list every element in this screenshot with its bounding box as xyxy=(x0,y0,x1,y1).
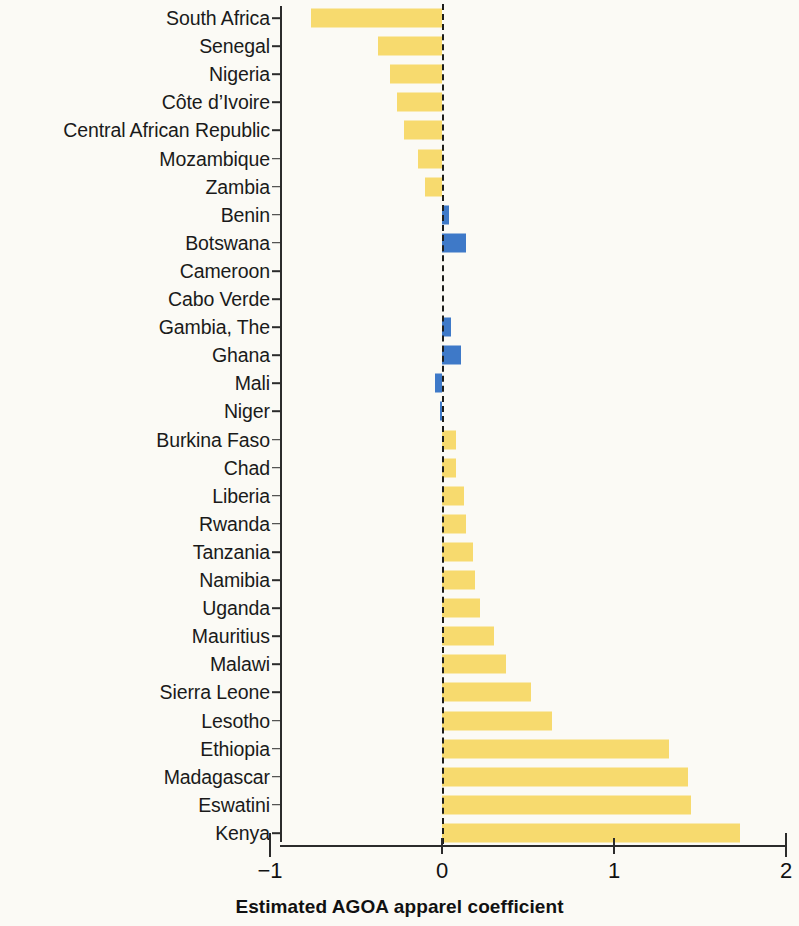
bar xyxy=(378,37,442,56)
bar-row: Gambia, The xyxy=(0,313,799,341)
category-label: Zambia xyxy=(206,175,270,198)
x-axis-tick xyxy=(785,833,787,857)
bar xyxy=(442,571,475,590)
bar xyxy=(442,486,464,505)
bar-row: Niger xyxy=(0,397,799,425)
y-axis-tick xyxy=(272,326,281,328)
x-axis-title: Estimated AGOA apparel coefficient xyxy=(0,896,799,918)
category-label: Gambia, The xyxy=(159,316,270,339)
bar xyxy=(397,93,442,112)
bar-row: Mozambique xyxy=(0,145,799,173)
category-label: Ghana xyxy=(212,344,270,367)
y-axis-tick xyxy=(272,242,281,244)
bar-row: Senegal xyxy=(0,32,799,60)
category-label: Namibia xyxy=(199,569,270,592)
bar-row: Burkina Faso xyxy=(0,426,799,454)
y-axis-tick xyxy=(272,45,281,47)
category-label: South Africa xyxy=(166,7,270,30)
bar-row: Benin xyxy=(0,201,799,229)
category-label: Mozambique xyxy=(159,147,270,170)
bar-row: Mali xyxy=(0,369,799,397)
bar xyxy=(425,177,442,196)
plot-area: South AfricaSenegalNigeriaCôte d’IvoireC… xyxy=(0,0,799,846)
zero-reference-line xyxy=(442,4,444,844)
bar xyxy=(442,430,456,449)
bar xyxy=(442,683,531,702)
chart-figure: South AfricaSenegalNigeriaCôte d’IvoireC… xyxy=(0,0,799,926)
category-label: Eswatini xyxy=(198,793,270,816)
y-axis-tick xyxy=(272,214,281,216)
y-axis-tick xyxy=(272,607,281,609)
category-label: Uganda xyxy=(202,597,270,620)
bar-row: Mauritius xyxy=(0,622,799,650)
x-axis-line xyxy=(280,845,787,847)
category-label: Senegal xyxy=(199,35,270,58)
category-label: Lesotho xyxy=(201,709,270,732)
bar-row: Botswana xyxy=(0,229,799,257)
category-label: Rwanda xyxy=(199,512,270,535)
bar xyxy=(442,767,688,786)
bar-row: Rwanda xyxy=(0,510,799,538)
bar xyxy=(404,121,442,140)
x-axis-tick-label: 0 xyxy=(436,858,448,884)
category-label: Chad xyxy=(224,456,270,479)
y-axis-tick xyxy=(272,130,281,132)
bar-row: Côte d’Ivoire xyxy=(0,88,799,116)
y-axis-tick xyxy=(272,776,281,778)
y-axis-tick xyxy=(272,439,281,441)
bar xyxy=(442,458,456,477)
y-axis-tick xyxy=(272,158,281,160)
category-label: Mali xyxy=(235,372,270,395)
y-axis-tick xyxy=(272,467,281,469)
y-axis-tick xyxy=(272,102,281,104)
bar xyxy=(390,65,442,84)
bar-row: Ghana xyxy=(0,341,799,369)
bar-row: Madagascar xyxy=(0,763,799,791)
bar-row: Namibia xyxy=(0,566,799,594)
bar xyxy=(442,795,691,814)
x-axis-tick-label: 1 xyxy=(608,858,620,884)
bar-row: Kenya xyxy=(0,819,799,847)
bar xyxy=(311,9,442,28)
category-label: Cabo Verde xyxy=(168,288,270,311)
category-label: Sierra Leone xyxy=(160,681,270,704)
y-axis-tick xyxy=(272,664,281,666)
y-axis-tick xyxy=(272,720,281,722)
bar xyxy=(442,823,740,842)
bar xyxy=(418,149,442,168)
bar xyxy=(442,599,480,618)
category-label: Malawi xyxy=(210,653,270,676)
bar-row: Liberia xyxy=(0,482,799,510)
y-axis-tick xyxy=(272,186,281,188)
bar-row: Cabo Verde xyxy=(0,285,799,313)
category-label: Benin xyxy=(221,203,270,226)
bar xyxy=(442,739,669,758)
category-label: Ethiopia xyxy=(200,737,270,760)
bar xyxy=(442,346,461,365)
y-axis-tick xyxy=(272,804,281,806)
y-axis-tick xyxy=(272,551,281,553)
x-axis-tick-label: 2 xyxy=(780,858,792,884)
bar-row: Zambia xyxy=(0,173,799,201)
category-label: Niger xyxy=(224,400,270,423)
bar-row: Uganda xyxy=(0,594,799,622)
y-axis-tick xyxy=(272,383,281,385)
bar-row: Nigeria xyxy=(0,60,799,88)
category-label: Tanzania xyxy=(193,540,270,563)
bar-row: South Africa xyxy=(0,4,799,32)
x-axis-tick-label: −1 xyxy=(257,858,282,884)
y-axis-tick xyxy=(272,635,281,637)
y-axis-tick xyxy=(272,298,281,300)
bar xyxy=(442,514,466,533)
y-axis-tick xyxy=(272,523,281,525)
bar xyxy=(442,711,552,730)
y-axis-tick xyxy=(272,73,281,75)
y-axis-tick xyxy=(272,354,281,356)
bar-row: Lesotho xyxy=(0,707,799,735)
category-label: Liberia xyxy=(212,484,270,507)
bar-row: Malawi xyxy=(0,650,799,678)
bar-row: Ethiopia xyxy=(0,735,799,763)
bar xyxy=(442,655,506,674)
y-axis-tick xyxy=(272,17,281,19)
bar-row: Central African Republic xyxy=(0,116,799,144)
